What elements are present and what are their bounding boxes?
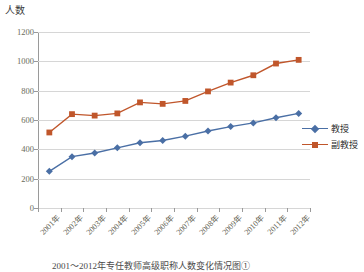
y-axis-tick-mark [34, 61, 38, 62]
legend-item-professor[interactable]: 教授 [302, 120, 358, 136]
x-axis-tick-mark [61, 208, 62, 212]
y-axis-tick-label: 400 [0, 144, 34, 154]
y-axis-tick-label: 200 [0, 174, 34, 184]
x-axis-tick-mark [83, 208, 84, 212]
x-axis-tick-label: 2001年 [37, 212, 62, 237]
gridline [38, 91, 310, 92]
chart-legend: 教授 副教授 [302, 120, 358, 152]
y-axis-tick-mark [34, 120, 38, 121]
y-axis-tick-mark [34, 179, 38, 180]
x-axis-tick-mark [287, 208, 288, 212]
y-axis-tick-mark [34, 32, 38, 33]
x-axis-tick-label: 2008年 [196, 212, 221, 237]
y-axis-tick-label: 1000 [0, 56, 34, 66]
x-axis-tick-mark [106, 208, 107, 212]
x-axis-tick-label: 2002年 [60, 212, 85, 237]
y-axis-tick-mark [34, 91, 38, 92]
y-axis-tick-mark [34, 149, 38, 150]
y-axis-tick-label: 0 [0, 203, 34, 213]
gridline [38, 32, 310, 33]
x-axis-tick-mark [242, 208, 243, 212]
x-axis-tick-mark [151, 208, 152, 212]
y-axis-title: 人数 [5, 2, 25, 17]
x-axis-tick-mark [38, 208, 39, 212]
gridline [38, 120, 310, 121]
gridline [38, 179, 310, 180]
x-axis-tick-label: 2009年 [219, 212, 244, 237]
x-axis-tick-mark [197, 208, 198, 212]
y-axis-tick-label: 600 [0, 115, 34, 125]
legend-marker-associate-professor [302, 139, 328, 149]
x-axis-tick-mark [265, 208, 266, 212]
x-axis-tick-mark [129, 208, 130, 212]
gridline [38, 149, 310, 150]
x-axis-tick-mark [174, 208, 175, 212]
legend-item-associate-professor[interactable]: 副教授 [302, 136, 358, 152]
legend-marker-professor [302, 123, 328, 133]
x-axis-tick-label: 2007年 [173, 212, 198, 237]
figure-caption: 2001～2012年专任教师高级职称人数变化情况图① [52, 259, 250, 272]
x-axis-tick-mark [219, 208, 220, 212]
x-axis-tick-label: 2003年 [83, 212, 108, 237]
x-axis-tick-label: 2010年 [241, 212, 266, 237]
legend-label-professor: 教授 [331, 122, 349, 135]
x-axis-tick-label: 2011年 [264, 212, 289, 237]
y-axis-tick-label: 800 [0, 86, 34, 96]
x-axis-tick-label: 2012年 [287, 212, 312, 237]
x-axis-tick-label: 2004年 [105, 212, 130, 237]
x-axis-tick-label: 2005年 [128, 212, 153, 237]
x-axis-tick-mark [310, 208, 311, 212]
legend-label-associate-professor: 副教授 [331, 138, 358, 151]
x-axis-tick-label: 2006年 [151, 212, 176, 237]
y-axis-tick-label: 1200 [0, 27, 34, 37]
gridline [38, 61, 310, 62]
